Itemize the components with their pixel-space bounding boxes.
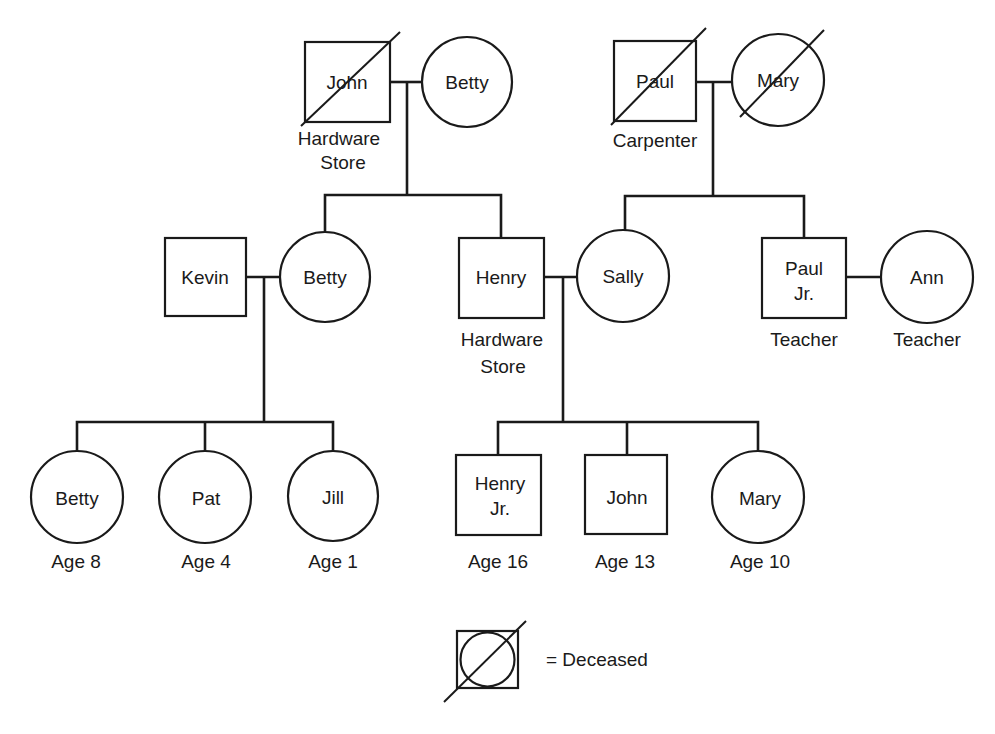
- legend-text: = Deceased: [546, 649, 648, 670]
- name-label: Sally: [602, 266, 644, 287]
- genogram: John Hardware Store Betty Paul Carpenter…: [0, 0, 995, 734]
- person-betty-sr: Betty: [422, 37, 512, 127]
- person-mary-child: Mary Age 10: [712, 451, 804, 572]
- name-label: Kevin: [181, 267, 229, 288]
- person-john-sr: John Hardware Store: [298, 32, 400, 173]
- name-label: Pat: [192, 488, 221, 509]
- age-label: Age 8: [51, 551, 101, 572]
- occupation-label: Hardware: [298, 128, 380, 149]
- person-betty: Betty: [280, 232, 370, 322]
- age-label: Age 10: [730, 551, 790, 572]
- legend: = Deceased: [444, 621, 648, 702]
- name-label: Henry: [476, 267, 527, 288]
- name-label: Jr.: [794, 283, 814, 304]
- deceased-symbol-icon: [444, 621, 526, 702]
- sibling-bar-sally-pauljr: [625, 196, 804, 238]
- gen1-left-couple: John Hardware Store Betty: [298, 32, 512, 195]
- name-label: Mary: [739, 488, 782, 509]
- name-label: John: [606, 487, 647, 508]
- occupation-label: Teacher: [893, 329, 961, 350]
- name-label: Jr.: [490, 498, 510, 519]
- name-label: Betty: [445, 72, 489, 93]
- person-paul-jr: Paul Jr. Teacher: [762, 238, 846, 350]
- age-label: Age 13: [595, 551, 655, 572]
- person-ann: Ann Teacher: [881, 231, 973, 350]
- occupation-label: Hardware: [461, 329, 543, 350]
- name-label: Paul: [785, 258, 823, 279]
- person-kevin: Kevin: [165, 238, 246, 316]
- gen1-right-couple: Paul Carpenter Mary: [611, 28, 824, 195]
- sibling-bar-betty-henry: [325, 195, 501, 238]
- person-paul-sr: Paul Carpenter: [611, 28, 706, 151]
- name-label: Betty: [55, 488, 99, 509]
- person-sally: Sally: [577, 230, 669, 322]
- age-label: Age 4: [181, 551, 231, 572]
- name-label: Jill: [322, 487, 344, 508]
- name-label: Mary: [757, 70, 800, 91]
- person-mary-sr: Mary: [732, 30, 824, 126]
- occupation-label: Store: [480, 356, 525, 377]
- gen2-henry-sally: Henry Hardware Store Sally: [459, 230, 669, 422]
- male-square: [456, 455, 541, 535]
- person-jill: Jill Age 1: [288, 451, 378, 572]
- name-label: Ann: [910, 267, 944, 288]
- person-henry-jr: Henry Jr. Age 16: [456, 455, 541, 572]
- occupation-label: Teacher: [770, 329, 838, 350]
- person-betty-child: Betty Age 8: [31, 451, 123, 572]
- person-john-child: John Age 13: [585, 455, 667, 572]
- gen2-kevin-betty: Kevin Betty: [165, 232, 370, 422]
- gen2-pauljr-ann: Paul Jr. Teacher Ann Teacher: [762, 231, 973, 350]
- person-henry: Henry Hardware Store: [459, 238, 544, 377]
- name-label: Henry: [475, 473, 526, 494]
- age-label: Age 1: [308, 551, 358, 572]
- occupation-label: Store: [320, 152, 365, 173]
- age-label: Age 16: [468, 551, 528, 572]
- name-label: Betty: [303, 267, 347, 288]
- person-pat: Pat Age 4: [159, 451, 251, 572]
- occupation-label: Carpenter: [613, 130, 698, 151]
